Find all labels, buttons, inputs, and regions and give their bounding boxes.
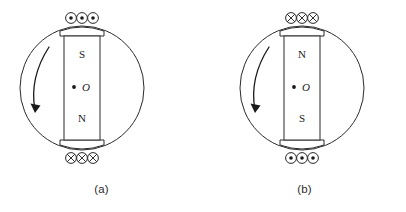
panel-b-drawing: N S O xyxy=(203,0,406,182)
axis-center-label-a: O xyxy=(82,81,90,93)
figure-root: S N O xyxy=(0,0,406,212)
magnet-top-pole-label-a: S xyxy=(79,48,85,60)
panel-a-drawing: S N O xyxy=(0,0,203,182)
diagram-panel-a: S N O xyxy=(0,0,203,212)
panel-a-caption: (a) xyxy=(0,182,203,196)
top-wire-group-a xyxy=(66,13,99,24)
rotation-arrow-arc-a xyxy=(34,47,49,110)
diagram-panel-b: N S O xyxy=(203,0,406,212)
magnet-bottom-pole-label-a: N xyxy=(78,112,86,124)
top-wire-group-b xyxy=(286,13,319,24)
bottom-wire-dot-icon-2-b xyxy=(300,156,304,160)
bottom-wire-group-a xyxy=(66,153,99,164)
top-wire-dot-icon-2-a xyxy=(80,16,84,20)
magnet-bottom-pole-label-b: S xyxy=(299,112,305,124)
axis-center-dot-a xyxy=(72,85,76,89)
rotation-arrow-head-a xyxy=(31,104,41,114)
axis-center-dot-b xyxy=(292,85,296,89)
rotation-arrow-arc-b xyxy=(254,47,269,110)
top-wire-dot-icon-3-a xyxy=(91,16,95,20)
magnet-top-pole-label-b: N xyxy=(298,48,306,60)
bottom-wire-group-b xyxy=(286,153,319,164)
panel-b-caption: (b) xyxy=(203,182,406,196)
bottom-wire-dot-icon-3-b xyxy=(311,156,315,160)
rotation-arrow-head-b xyxy=(251,104,261,114)
axis-center-label-b: O xyxy=(302,81,310,93)
bottom-wire-dot-icon-1-b xyxy=(289,156,293,160)
top-wire-dot-icon-1-a xyxy=(69,16,73,20)
